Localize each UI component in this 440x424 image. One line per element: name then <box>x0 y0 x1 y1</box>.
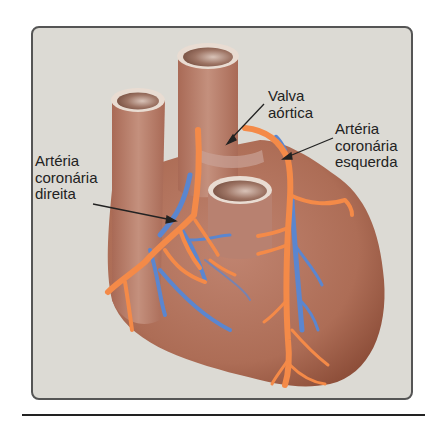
heart-illustration <box>0 0 440 424</box>
superior-vena-cava <box>112 100 165 324</box>
bottom-divider <box>22 414 425 416</box>
label-aortic-valve: Valva aórtica <box>268 88 313 121</box>
label-right-coronary-artery: Artéria coronária direita <box>35 153 98 203</box>
label-left-coronary-artery: Artéria coronária esquerda <box>335 121 398 171</box>
aorta <box>178 56 238 197</box>
